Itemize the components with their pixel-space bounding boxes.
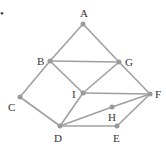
node-E	[115, 124, 120, 129]
node-label-C: C	[8, 101, 15, 113]
node-label-G: G	[125, 56, 133, 68]
edge-G-F	[119, 62, 150, 94]
node-label-D: D	[54, 132, 62, 144]
node-H	[110, 105, 115, 110]
edge-C-D	[20, 97, 60, 126]
edge-I-F	[83, 93, 150, 94]
edge-B-C	[20, 61, 50, 97]
edge-A-G	[83, 24, 119, 62]
edge-A-B	[50, 24, 83, 61]
node-D	[58, 124, 63, 129]
node-label-I: I	[72, 88, 76, 100]
graph-nodes: ABGICFHDE	[8, 7, 161, 144]
node-label-A: A	[80, 7, 88, 19]
edge-B-I	[50, 61, 83, 93]
edge-D-H	[60, 107, 112, 126]
graph-diagram: ABGICFHDE •	[0, 0, 166, 154]
node-label-H: H	[108, 111, 116, 123]
node-label-F: F	[155, 88, 161, 100]
edge-G-I	[83, 62, 119, 93]
node-A	[81, 22, 86, 27]
bullet-marker: •	[0, 7, 4, 19]
node-G	[117, 60, 122, 65]
edge-B-G	[50, 61, 119, 62]
node-B	[48, 59, 53, 64]
node-C	[18, 95, 23, 100]
graph-edges	[20, 24, 150, 126]
node-label-E: E	[113, 132, 120, 144]
node-F	[148, 92, 153, 97]
node-I	[81, 91, 86, 96]
node-label-B: B	[37, 55, 44, 67]
